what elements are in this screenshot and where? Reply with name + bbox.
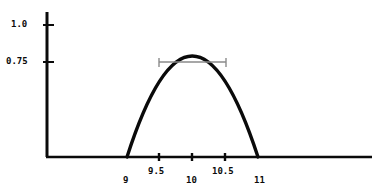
x-tick-label-10.5: 10.5 xyxy=(212,166,234,176)
parabola-curve xyxy=(127,56,258,157)
y-tick-label-0.75: 0.75 xyxy=(6,56,28,66)
x-tick-label-9: 9 xyxy=(123,175,128,185)
y-tick-label-1.0: 1.0 xyxy=(11,19,27,29)
x-tick-label-11: 11 xyxy=(254,175,265,185)
x-tick-label-10: 10 xyxy=(186,175,197,185)
x-tick-label-9.5: 9.5 xyxy=(148,166,164,176)
chart-graphics xyxy=(0,0,374,195)
plot-canvas: 1.0 0.75 9 9.5 10 10.5 11 xyxy=(0,0,374,195)
